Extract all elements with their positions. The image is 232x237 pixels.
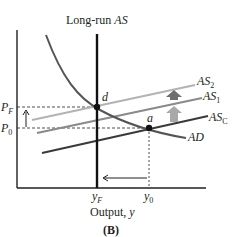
panel-label: (B) [103,223,119,237]
title: Long-run AS [66,13,128,27]
point-d-label: d [102,90,109,104]
ad-label: AD [187,130,204,144]
as1-label: AS1 [202,89,220,105]
point-d [94,104,100,110]
x-axis-label: Output, y [90,205,135,219]
as2-label: AS2 [196,74,214,90]
yf-label: yF [91,189,102,205]
p0-label: P0 [0,121,12,137]
point-a [146,125,152,131]
asc-label: ASC [208,110,228,126]
ad-curve [46,35,186,138]
pf-label: PF [0,100,13,116]
y0-label: y0 [143,189,153,205]
shift-arrow-lower-icon [166,106,182,122]
point-a-label: a [147,111,153,125]
as-ad-diagram: Long-run AS d a AS2 AS1 ASC AD PF P0 yF … [0,0,232,237]
